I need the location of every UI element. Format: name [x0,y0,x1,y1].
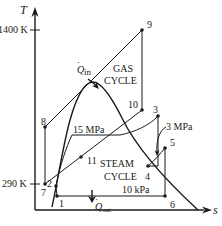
s-axis-label: s [213,203,218,217]
svg-text:•: • [78,60,80,65]
svg-text:4: 4 [145,171,150,182]
steam-cycle-label-1: STEAM [100,158,134,169]
svg-text:in: in [84,67,92,77]
svg-text:7: 7 [41,187,46,198]
point-11 [79,155,83,159]
pressure-10kpa: 10 kPa [122,184,150,195]
point-10 [140,108,144,112]
gas-cycle-label-2: CYCLE [104,75,137,86]
point-4 [146,164,150,168]
svg-text:2: 2 [47,178,52,189]
svg-text:11: 11 [87,155,97,166]
gas-cycle-label-1: GAS [113,63,133,74]
svg-text:6: 6 [170,199,175,210]
svg-text:8: 8 [41,116,46,127]
point-6 [163,194,167,198]
tick-290k: 290 K [2,178,28,189]
svg-text:5: 5 [170,137,175,148]
pressure-15mpa: 15 MPa [73,124,105,135]
t-axis: T 1400 K 290 K [0,3,40,210]
point-2 [54,184,58,188]
point-5 [163,146,167,150]
svg-text:3: 3 [153,104,158,115]
point-7 [43,182,47,186]
svg-text:1: 1 [59,198,64,209]
t-axis-label: T [20,3,28,17]
svg-text:•: • [96,197,98,202]
ts-diagram: T 1400 K 290 K s 1 2 3 [0,0,222,226]
tick-1400k: 1400 K [0,24,29,35]
point-9 [140,28,144,32]
pressure-3mpa: 3 MPa [166,121,193,132]
svg-text:10: 10 [128,99,138,110]
svg-text:9: 9 [147,19,152,30]
steam-cycle-label-2: CYCLE [104,171,137,182]
svg-text:out: out [102,206,111,214]
